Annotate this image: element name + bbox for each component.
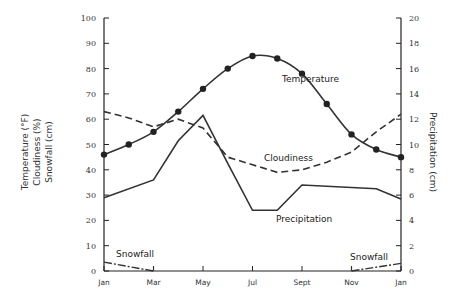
temperature-point: [126, 141, 132, 147]
left-tick-label: 70: [86, 90, 96, 99]
right-tick-label: 0: [409, 267, 414, 276]
temperature-point: [225, 65, 231, 71]
left-tick-label: 50: [86, 141, 96, 150]
temperature-point: [324, 101, 330, 107]
x-tick-label: May: [195, 278, 211, 287]
left-tick-label: 0: [91, 267, 96, 276]
temperature-point: [249, 53, 255, 59]
x-tick-label: Jan: [394, 278, 407, 287]
right-tick-label: 20: [409, 14, 419, 23]
temperature-point: [398, 154, 404, 160]
left-tick-label: 80: [86, 65, 96, 74]
left-tick-label: 20: [86, 216, 96, 225]
left-tick-label: 30: [86, 191, 96, 200]
x-tick-label: Jan: [97, 278, 110, 287]
left-axis-title: Temperature (°F): [20, 114, 30, 192]
temperature-point: [200, 86, 206, 92]
x-tick-label: Sept: [293, 278, 310, 287]
x-tick-label: Mar: [146, 278, 161, 287]
snowfall-line: [352, 263, 402, 271]
right-tick-label: 2: [409, 242, 414, 251]
right-tick-label: 18: [409, 39, 419, 48]
precipitation-line: [104, 115, 401, 210]
left-axis-title: Snowfall (cm): [44, 121, 54, 183]
right-tick-label: 14: [409, 90, 419, 99]
right-axis-title: Precipitation (cm): [428, 112, 438, 192]
snowfall-line: [104, 262, 154, 271]
right-tick-label: 6: [409, 191, 414, 200]
temperature-point: [274, 55, 280, 61]
left-tick-label: 60: [86, 115, 96, 124]
cloudiness-label: Cloudiness: [264, 153, 313, 163]
right-tick-label: 12: [409, 115, 419, 124]
right-tick-label: 10: [409, 141, 419, 150]
temperature-point: [175, 108, 181, 114]
x-tick-label: Jul: [247, 278, 257, 287]
x-tick-label: Nov: [344, 278, 359, 287]
left-tick-label: 40: [86, 166, 96, 175]
climate-chart: 010203040506070809010002468101214161820J…: [0, 0, 462, 307]
left-tick-label: 90: [86, 39, 96, 48]
temperature-point: [101, 151, 107, 157]
temperature-point: [150, 129, 156, 135]
labels: TemperatureCloudinessPrecipitationSnowfa…: [116, 74, 388, 262]
snowfall-label-right: Snowfall: [350, 252, 388, 262]
cloudiness-line: [104, 112, 401, 173]
precipitation-label: Precipitation: [276, 214, 332, 224]
left-axis-title: Cloudiness (%): [32, 118, 42, 185]
left-tick-label: 10: [86, 242, 96, 251]
temperature-point: [373, 146, 379, 152]
temperature-label: Temperature: [281, 74, 339, 84]
right-tick-label: 8: [409, 166, 414, 175]
right-tick-label: 16: [409, 65, 419, 74]
snowfall-label-left: Snowfall: [116, 249, 154, 259]
right-tick-label: 4: [409, 216, 414, 225]
left-tick-label: 100: [81, 14, 96, 23]
series-lines: [101, 53, 404, 271]
temperature-point: [348, 131, 354, 137]
temperature-line: [104, 55, 401, 157]
